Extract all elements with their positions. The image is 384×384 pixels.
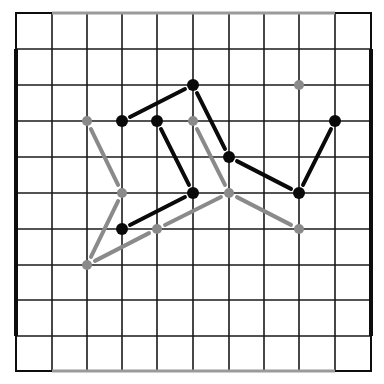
grid-diagram — [0, 0, 384, 384]
black-node — [329, 115, 341, 127]
gray-node — [82, 260, 92, 270]
gray-node — [224, 188, 234, 198]
gray-node — [82, 116, 92, 126]
black-node — [293, 187, 305, 199]
black-node — [116, 115, 128, 127]
border-corner — [335, 13, 371, 49]
black-node — [151, 115, 163, 127]
gray-node — [152, 224, 162, 234]
border-corner — [16, 336, 52, 371]
black-node — [187, 79, 199, 91]
gray-node — [117, 188, 127, 198]
border-corner — [335, 336, 371, 371]
gray-node — [294, 80, 304, 90]
black-node — [116, 223, 128, 235]
black-node — [223, 151, 235, 163]
black-node — [187, 187, 199, 199]
border-corner — [16, 13, 52, 49]
gray-node — [294, 224, 304, 234]
gray-node — [188, 116, 198, 126]
